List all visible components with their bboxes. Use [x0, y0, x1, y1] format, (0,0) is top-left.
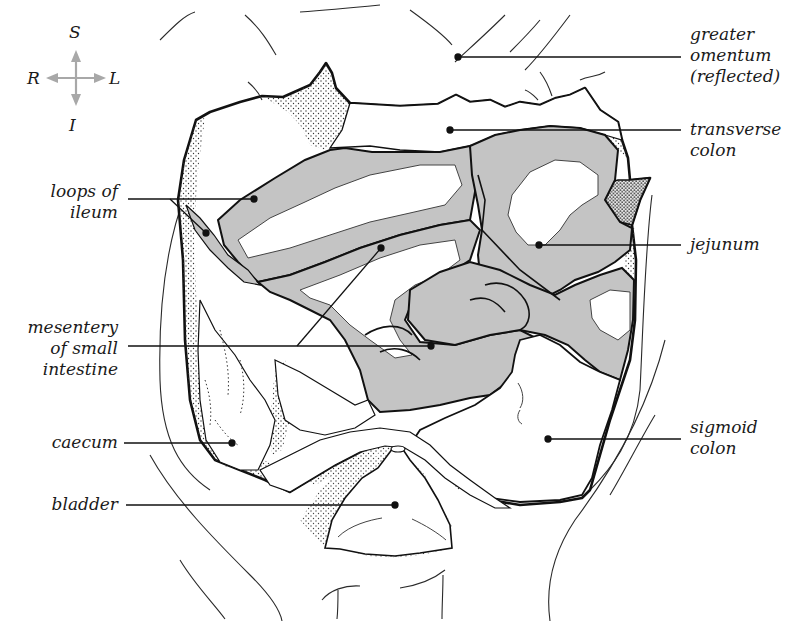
label-line: loops of: [51, 181, 118, 202]
label-line: caecum: [52, 432, 118, 453]
label-line: transverse: [690, 119, 781, 140]
label-line: (reflected): [690, 66, 780, 87]
label-bladder: bladder: [52, 494, 118, 515]
label-line: greater: [690, 24, 780, 45]
label-transverse-colon: transverse colon: [690, 119, 781, 161]
label-line: omentum: [690, 45, 780, 66]
label-line: mesentery: [27, 317, 118, 338]
label-line: colon: [690, 140, 781, 161]
label-line: sigmoid: [690, 417, 758, 438]
abdomen-illustration: [0, 0, 786, 621]
compass-superior-label: S: [69, 24, 81, 41]
anatomy-figure: S I R L loops of ileum mesentery of smal…: [0, 0, 786, 621]
label-jejunum: jejunum: [690, 234, 760, 255]
label-mesentery-of-small-intestine: mesentery of small intestine: [27, 317, 118, 380]
compass-right-label: R: [27, 70, 40, 87]
label-line: intestine: [27, 359, 118, 380]
label-line: bladder: [52, 494, 118, 515]
label-caecum: caecum: [52, 432, 118, 453]
compass-inferior-label: I: [69, 117, 76, 134]
compass-left-label: L: [109, 70, 120, 87]
label-line: of small: [27, 338, 118, 359]
label-greater-omentum: greater omentum (reflected): [690, 24, 780, 87]
label-sigmoid-colon: sigmoid colon: [690, 417, 758, 459]
label-line: jejunum: [690, 234, 760, 255]
label-line: colon: [690, 438, 758, 459]
compass-icon: [46, 50, 106, 106]
label-line: ileum: [51, 202, 118, 223]
label-loops-of-ileum: loops of ileum: [51, 181, 118, 223]
